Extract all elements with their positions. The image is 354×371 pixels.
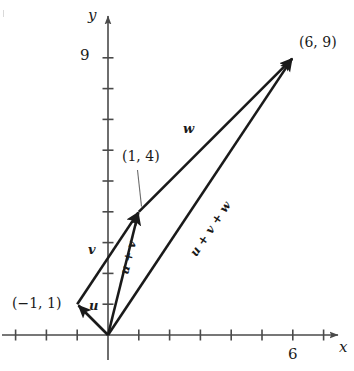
vector-u-plus-v-plus-w-arrow: [108, 59, 292, 335]
plot-canvas: [0, 0, 354, 371]
vector-diagram-figure: y x 9 6 (6, 9) (1, 4) (−1, 1) v u w u + …: [0, 0, 354, 371]
vector-w-arrow: [139, 59, 292, 212]
point-label-6-9: (6, 9): [299, 35, 337, 49]
y-tick-label-9: 9: [80, 48, 90, 63]
y-axis: [103, 16, 114, 360]
point-label-neg1-1: (−1, 1): [12, 296, 61, 310]
x-axis: [2, 330, 338, 341]
callout-leader-line: [138, 170, 142, 207]
x-axis-label: x: [339, 340, 347, 355]
vector-label-v: v: [88, 243, 96, 256]
vector-label-w: w: [183, 122, 194, 135]
y-axis-label: y: [88, 8, 96, 23]
point-label-1-4: (1, 4): [122, 149, 160, 163]
vector-label-u: u: [89, 299, 98, 312]
x-tick-label-6: 6: [288, 347, 298, 362]
